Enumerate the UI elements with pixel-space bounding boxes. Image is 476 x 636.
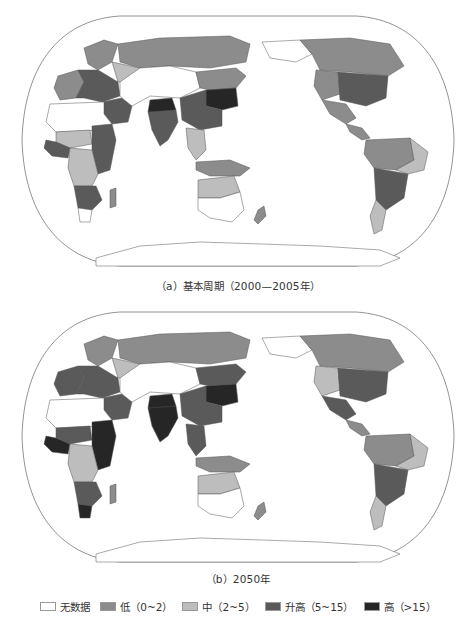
region-south-africa-cape <box>78 504 92 518</box>
region-antarctica <box>96 242 400 266</box>
region-south-africa-cape <box>78 208 92 222</box>
map-panel-b <box>0 306 476 564</box>
region-usa-west <box>314 70 340 100</box>
region-usa-east <box>338 368 388 402</box>
legend: 无数据 低（0~2） 中（2~5） 升高（5~15） 高（>15） <box>0 599 476 614</box>
legend-label-nodata: 无数据 <box>60 599 90 614</box>
swatch-high <box>364 602 380 611</box>
region-mexico <box>322 100 356 124</box>
region-madagascar <box>110 484 116 504</box>
region-southern-africa <box>74 482 102 506</box>
region-mongolia-siberia-south <box>196 68 246 90</box>
legend-label-low: 低（0~2） <box>120 599 172 614</box>
region-canada <box>300 38 404 76</box>
region-southern-africa <box>74 186 102 210</box>
region-china-north <box>206 384 238 406</box>
region-madagascar <box>110 188 116 208</box>
region-central-america <box>346 124 370 140</box>
swatch-increasing <box>265 602 281 611</box>
region-india <box>148 110 178 146</box>
region-usa-east <box>338 72 388 106</box>
legend-item-high: 高（>15） <box>364 599 436 614</box>
swatch-nodata <box>40 602 56 611</box>
legend-item-mid: 中（2~5） <box>182 599 254 614</box>
region-europe-central <box>76 70 120 102</box>
region-mongolia-siberia-south <box>196 364 246 386</box>
region-china-north <box>206 88 238 110</box>
legend-item-increasing: 升高（5~15） <box>265 599 354 614</box>
region-indonesia <box>196 456 250 472</box>
legend-label-mid: 中（2~5） <box>202 599 254 614</box>
caption-panel-b: （b）2050年 <box>0 571 476 586</box>
map-panel-a <box>0 10 476 272</box>
region-usa-west <box>314 366 340 396</box>
legend-item-low: 低（0~2） <box>100 599 172 614</box>
caption-panel-a: （a）基本周期（2000—2005年） <box>0 278 476 293</box>
legend-label-increasing: 升高（5~15） <box>285 599 354 614</box>
legend-label-high: 高（>15） <box>384 599 436 614</box>
region-new-zealand <box>254 502 266 520</box>
region-russia-north <box>118 332 250 364</box>
region-antarctica <box>96 538 400 562</box>
swatch-mid <box>182 602 198 611</box>
region-indonesia <box>196 160 250 176</box>
region-southeast-asia <box>186 128 206 160</box>
region-canada <box>300 334 404 372</box>
legend-item-nodata: 无数据 <box>40 599 90 614</box>
region-india <box>148 406 178 442</box>
swatch-low <box>100 602 116 611</box>
region-new-zealand <box>254 206 266 224</box>
region-southeast-asia <box>186 424 206 456</box>
region-russia-north <box>118 36 250 68</box>
region-europe-central <box>76 366 120 398</box>
region-mexico <box>322 396 356 420</box>
region-central-america <box>346 420 370 436</box>
